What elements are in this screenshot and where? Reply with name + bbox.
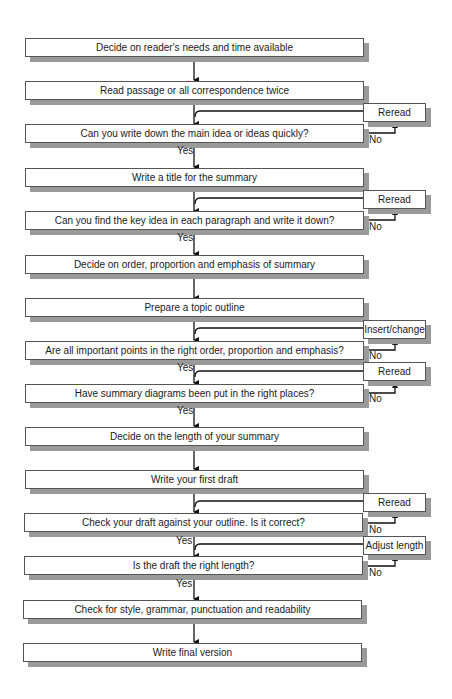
- decision-main-idea: Can you write down the main idea or idea…: [25, 124, 364, 143]
- decision-summary-diagrams: Have summary diagrams been put in the ri…: [25, 384, 364, 403]
- step-label: Can you write down the main idea or idea…: [81, 128, 309, 139]
- no-label: No: [369, 524, 382, 535]
- step-label: Is the draft the right length?: [133, 560, 255, 571]
- yes-label: Yes: [177, 145, 193, 156]
- step-decide-readers-needs: Decide on reader's needs and time availa…: [25, 38, 364, 57]
- loop-action-label: Reread: [378, 497, 411, 508]
- yes-label: Yes: [177, 362, 193, 373]
- step-label: Decide on the length of your summary: [110, 431, 279, 442]
- no-label: No: [369, 393, 382, 404]
- step-topic-outline: Prepare a topic outline: [25, 298, 364, 317]
- loop-action-adjust-length: Adjust length: [363, 536, 426, 555]
- step-label: Can you find the key idea in each paragr…: [55, 215, 335, 226]
- step-first-draft: Write your first draft: [25, 470, 364, 489]
- step-label: Check for style, grammar, punctuation an…: [74, 604, 310, 615]
- step-label: Write your first draft: [151, 474, 238, 485]
- loop-action-insert-change: Insert/change: [363, 320, 426, 339]
- step-label: Decide on order, proportion and emphasis…: [74, 259, 315, 270]
- step-check-style: Check for style, grammar, punctuation an…: [23, 600, 362, 619]
- yes-label: Yes: [176, 535, 192, 546]
- step-read-passage: Read passage or all correspondence twice: [25, 81, 364, 100]
- step-label: Write final version: [153, 647, 232, 658]
- step-label: Decide on reader's needs and time availa…: [96, 42, 293, 53]
- decision-important-points: Are all important points in the right or…: [25, 341, 364, 360]
- decision-key-idea: Can you find the key idea in each paragr…: [25, 211, 364, 230]
- no-label: No: [369, 134, 382, 145]
- no-label: No: [369, 567, 382, 578]
- yes-label: Yes: [177, 232, 193, 243]
- yes-label: Yes: [177, 405, 193, 416]
- step-label: Read passage or all correspondence twice: [100, 85, 289, 96]
- loop-action-label: Reread: [378, 194, 411, 205]
- loop-action-reread-4: Reread: [363, 493, 426, 512]
- loop-action-reread-1: Reread: [363, 103, 426, 122]
- no-label: No: [369, 221, 382, 232]
- step-label: Write a title for the summary: [132, 172, 257, 183]
- loop-action-label: Adjust length: [366, 540, 424, 551]
- step-label: Check your draft against your outline. I…: [82, 517, 305, 528]
- yes-label: Yes: [176, 578, 192, 589]
- loop-action-reread-2: Reread: [363, 190, 426, 209]
- step-final-version: Write final version: [23, 643, 362, 662]
- step-label: Have summary diagrams been put in the ri…: [75, 388, 315, 399]
- step-decide-length: Decide on the length of your summary: [25, 427, 364, 446]
- step-label: Prepare a topic outline: [144, 302, 244, 313]
- loop-action-label: Reread: [378, 366, 411, 377]
- decision-right-length: Is the draft the right length?: [24, 556, 363, 575]
- loop-action-label: Reread: [378, 107, 411, 118]
- step-write-title: Write a title for the summary: [25, 168, 364, 187]
- step-decide-order: Decide on order, proportion and emphasis…: [25, 255, 364, 274]
- loop-action-reread-3: Reread: [363, 362, 426, 381]
- loop-action-label: Insert/change: [364, 324, 425, 335]
- decision-check-draft: Check your draft against your outline. I…: [24, 513, 363, 532]
- no-label: No: [369, 350, 382, 361]
- step-label: Are all important points in the right or…: [45, 345, 344, 356]
